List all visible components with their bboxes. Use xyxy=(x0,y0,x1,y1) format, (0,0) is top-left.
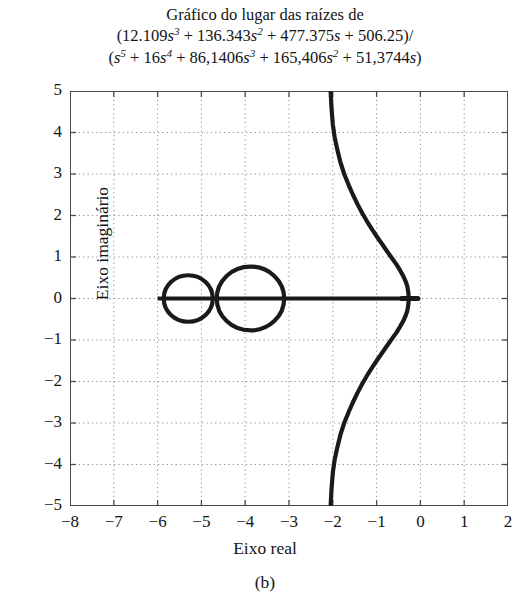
y-tick-label: 5 xyxy=(22,80,62,100)
y-axis-label: Eixo imaginário xyxy=(92,124,113,364)
x-tick-label: −7 xyxy=(94,512,134,532)
x-tick-label: −3 xyxy=(269,512,309,532)
x-tick-label: 2 xyxy=(488,512,528,532)
x-tick-label: −4 xyxy=(225,512,265,532)
x-tick-label: −8 xyxy=(50,512,90,532)
x-tick-label: −1 xyxy=(357,512,397,532)
root-locus-canvas xyxy=(70,91,508,506)
x-tick-label: 0 xyxy=(400,512,440,532)
x-tick-label: 1 xyxy=(444,512,484,532)
chart-title-line-2-numerator: (12.109s3 + 136.343s2 + 477.375s + 506.2… xyxy=(0,25,530,46)
x-axis-label: Eixo real xyxy=(0,538,530,559)
figure-caption: (b) xyxy=(0,572,530,593)
chart-title: Gráfico do lugar das raízes de (12.109s3… xyxy=(0,4,530,68)
root-locus-figure: Gráfico do lugar das raízes de (12.109s3… xyxy=(0,0,530,610)
y-tick-label: 3 xyxy=(22,163,62,183)
y-tick-label: −2 xyxy=(22,371,62,391)
x-tick-label: −6 xyxy=(138,512,178,532)
y-tick-label: −3 xyxy=(22,412,62,432)
y-tick-label: 4 xyxy=(22,122,62,142)
plot-area xyxy=(70,91,508,506)
x-tick-label: −5 xyxy=(181,512,221,532)
y-tick-label: −4 xyxy=(22,454,62,474)
y-tick-label: 2 xyxy=(22,205,62,225)
chart-title-line-3-denominator: (s5 + 16s4 + 86,1406s3 + 165,406s2 + 51,… xyxy=(0,47,530,68)
y-tick-label: 1 xyxy=(22,246,62,266)
x-tick-label: −2 xyxy=(313,512,353,532)
chart-title-line-1: Gráfico do lugar das raízes de xyxy=(0,4,530,25)
y-tick-label: 0 xyxy=(22,288,62,308)
y-tick-label: −1 xyxy=(22,329,62,349)
